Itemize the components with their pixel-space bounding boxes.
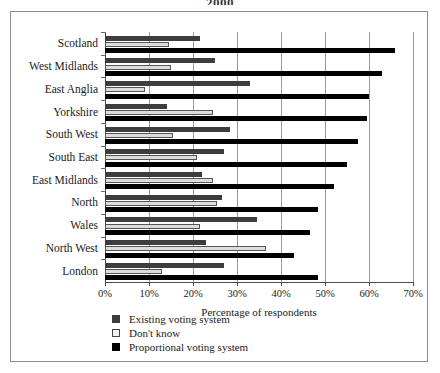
bar-dontknow: [105, 201, 217, 206]
bar-group: North West: [105, 240, 413, 257]
bar-existing: [105, 195, 222, 200]
bar-group: Scotland: [105, 36, 413, 53]
bar-existing: [105, 58, 215, 63]
y-tick: [101, 77, 106, 78]
category-label-yorkshire: Yorkshire: [53, 107, 98, 118]
category-label-north-west: North West: [46, 243, 98, 254]
bar-proportional: [105, 94, 369, 99]
category-label-scotland: Scotland: [58, 38, 98, 49]
chart-page: 2000 Percentage of respondents 0%10%20%3…: [0, 0, 440, 373]
legend-swatch-dontknow-icon: [112, 329, 120, 337]
bar-proportional: [105, 139, 358, 144]
y-tick: [101, 146, 106, 147]
x-tick-label-40: 40%: [271, 288, 290, 299]
y-tick: [101, 55, 106, 56]
plot-area: Percentage of respondents 0%10%20%30%40%…: [105, 32, 413, 282]
x-tick-label-20: 20%: [183, 288, 202, 299]
x-tick-label-70: 70%: [403, 288, 422, 299]
legend-label-dontknow: Don't know: [129, 327, 180, 339]
x-tick-label-50: 50%: [315, 288, 334, 299]
legend-label-existing: Existing voting system: [129, 313, 230, 325]
x-tick-10: [149, 282, 150, 286]
x-tick-50: [325, 282, 326, 286]
category-label-east-anglia: East Anglia: [45, 84, 98, 95]
chart-legend: Existing voting system Don't know Propor…: [112, 312, 248, 354]
bar-dontknow: [105, 178, 213, 183]
legend-label-proportional: Proportional voting system: [129, 341, 248, 353]
bar-proportional: [105, 230, 310, 235]
bar-proportional: [105, 275, 318, 280]
bar-dontknow: [105, 65, 171, 70]
bar-group: East Anglia: [105, 81, 413, 98]
bar-group: Wales: [105, 217, 413, 234]
bar-existing: [105, 149, 224, 154]
category-label-london: London: [62, 266, 98, 277]
bar-dontknow: [105, 110, 213, 115]
bar-proportional: [105, 116, 367, 121]
bar-group: South East: [105, 149, 413, 166]
bar-existing: [105, 127, 230, 132]
chart-frame: Percentage of respondents 0%10%20%30%40%…: [10, 11, 428, 362]
bar-dontknow: [105, 246, 266, 251]
bar-dontknow: [105, 42, 169, 47]
category-label-west-midlands: West Midlands: [29, 61, 98, 72]
y-tick: [101, 259, 106, 260]
category-label-south-west: South West: [46, 129, 98, 140]
bar-dontknow: [105, 224, 200, 229]
category-label-east-midlands: East Midlands: [32, 175, 98, 186]
x-tick-70: [413, 282, 414, 286]
bar-existing: [105, 172, 202, 177]
y-tick: [101, 214, 106, 215]
y-tick: [101, 123, 106, 124]
y-tick: [101, 237, 106, 238]
bar-group: Yorkshire: [105, 104, 413, 121]
bar-existing: [105, 104, 167, 109]
x-tick-label-10: 10%: [139, 288, 158, 299]
bar-group: North: [105, 195, 413, 212]
legend-swatch-existing-icon: [112, 315, 120, 323]
x-tick-label-0: 0%: [98, 288, 112, 299]
bar-proportional: [105, 207, 318, 212]
x-tick-60: [369, 282, 370, 286]
y-tick: [101, 168, 106, 169]
legend-item-existing: Existing voting system: [112, 312, 248, 326]
bar-existing: [105, 263, 224, 268]
bar-proportional: [105, 162, 347, 167]
bar-proportional: [105, 48, 395, 53]
bar-group: South West: [105, 127, 413, 144]
y-tick: [101, 100, 106, 101]
x-tick-label-30: 30%: [227, 288, 246, 299]
y-tick: [101, 191, 106, 192]
bar-existing: [105, 217, 257, 222]
bar-dontknow: [105, 87, 145, 92]
x-tick-label-60: 60%: [359, 288, 378, 299]
category-label-wales: Wales: [70, 220, 98, 231]
bar-existing: [105, 36, 200, 41]
gridline-70: [413, 32, 414, 282]
bar-dontknow: [105, 155, 197, 160]
bar-group: London: [105, 263, 413, 280]
x-axis-line: [105, 282, 413, 283]
page-top-title-fragment: 2000: [0, 0, 440, 5]
x-tick-20: [193, 282, 194, 286]
bar-dontknow: [105, 133, 173, 138]
legend-item-proportional: Proportional voting system: [112, 340, 248, 354]
y-tick: [101, 32, 106, 33]
category-label-south-east: South East: [48, 152, 98, 163]
legend-swatch-proportional-icon: [112, 343, 120, 351]
x-tick-40: [281, 282, 282, 286]
bar-dontknow: [105, 269, 162, 274]
bar-existing: [105, 240, 206, 245]
bar-proportional: [105, 184, 334, 189]
legend-item-dontknow: Don't know: [112, 326, 248, 340]
bar-proportional: [105, 253, 294, 258]
x-tick-30: [237, 282, 238, 286]
bar-group: East Midlands: [105, 172, 413, 189]
bar-existing: [105, 81, 250, 86]
x-tick-0: [105, 282, 106, 286]
category-label-north: North: [71, 197, 98, 208]
bar-proportional: [105, 71, 382, 76]
bar-group: West Midlands: [105, 58, 413, 75]
